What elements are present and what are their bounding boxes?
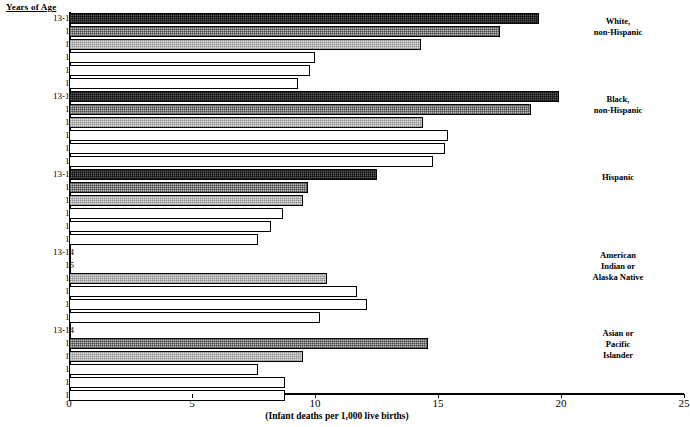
chart-row: 17 [69,207,684,220]
x-tick-label-10: 10 [310,397,321,409]
row-label-age: 17 [14,285,74,298]
group-annotation: Black, non-Hispanic [594,94,643,116]
bar-hispanic-19 [69,234,258,245]
group-annotation: Hispanic [602,172,634,183]
bar-white-non-hispanic-17 [69,52,315,63]
group-annotation: American Indian or Alaska Native [590,250,646,283]
chart-row: 19 [69,155,684,168]
chart-row: 15 [69,25,684,38]
chart-row: 16 [69,194,684,207]
row-label-age: 17 [14,129,74,142]
bar-asian-or-pacific-islander-18 [69,377,285,388]
bar-black-non-hispanic-19 [69,156,433,167]
row-label-age: 15 [14,259,74,272]
bar-white-non-hispanic-16 [69,39,421,50]
x-axis-title: (Infant deaths per 1,000 live births) [0,411,674,421]
row-label-age: 16 [14,116,74,129]
x-tick-label-20: 20 [556,397,567,409]
bar-hispanic-15 [69,182,308,193]
chart-row: 19 [69,311,684,324]
row-label-age: 18 [14,298,74,311]
row-label-age: 15 [14,337,74,350]
row-label-age: 19 [14,389,74,402]
chart-row: 13-14 [69,168,684,181]
bar-american-indian-or-alaska-native-19 [69,312,320,323]
y-axis-header: Years of Age [6,2,56,12]
x-tick-label-15: 15 [433,397,444,409]
bar-asian-or-pacific-islander-17 [69,364,258,375]
bar-hispanic-17 [69,208,283,219]
chart-row: 19 [69,77,684,90]
bar-asian-or-pacific-islander-15 [69,338,428,349]
chart-row: 18 [69,142,684,155]
chart-row: 17 [69,285,684,298]
bar-asian-or-pacific-islander-16 [69,351,303,362]
bar-white-non-hispanic-15 [69,26,500,37]
bar-white-non-hispanic-18 [69,65,310,76]
row-label-age: 16 [14,350,74,363]
row-label-age: 19 [14,155,74,168]
bar-black-non-hispanic-18 [69,143,445,154]
row-label-age: 18 [14,64,74,77]
row-label-age: 15 [14,181,74,194]
chart-row: 16 [69,38,684,51]
chart-row: 13-14 [69,90,684,103]
chart-row: 17 [69,129,684,142]
row-label-age: 18 [14,220,74,233]
bar-american-indian-or-alaska-native-17 [69,286,357,297]
row-label-age: 17 [14,207,74,220]
row-label-age: 19 [14,77,74,90]
chart-row: 18 [69,64,684,77]
chart-row: 17 [69,363,684,376]
bar-american-indian-or-alaska-native-16 [69,273,327,284]
row-label-age: 13-14 [14,12,74,25]
row-label-age: 16 [14,272,74,285]
group-annotation: White, non-Hispanic [594,16,643,38]
row-label-age: 18 [14,376,74,389]
row-label-age: 18 [14,142,74,155]
group-annotation: Asian or Pacific Islander [590,328,646,361]
bar-white-non-hispanic-13-14 [69,13,539,24]
bar-black-non-hispanic-17 [69,130,448,141]
row-label-age: 13-14 [14,168,74,181]
bar-hispanic-13-14 [69,169,377,180]
x-tick-label-0: 0 [66,397,72,409]
bar-hispanic-16 [69,195,303,206]
chart-row: 18 [69,298,684,311]
chart-row: 19 [69,389,684,402]
row-label-age: 19 [14,233,74,246]
row-label-age: 19 [14,311,74,324]
chart-row: 16 [69,116,684,129]
bar-american-indian-or-alaska-native-18 [69,299,367,310]
bar-asian-or-pacific-islander-19 [69,390,285,401]
chart-row: 17 [69,51,684,64]
row-label-age: 13-14 [14,90,74,103]
row-label-age: 16 [14,38,74,51]
x-tick-label-25: 25 [679,397,690,409]
bar-hispanic-18 [69,221,271,232]
chart-row: 18 [69,376,684,389]
x-tick-label-5: 5 [189,397,195,409]
row-label-age: 16 [14,194,74,207]
bar-white-non-hispanic-19 [69,78,298,89]
row-label-age: 15 [14,25,74,38]
chart-row: 15 [69,103,684,116]
chart-row: 19 [69,233,684,246]
row-label-age: 15 [14,103,74,116]
row-label-age: 17 [14,363,74,376]
bar-black-non-hispanic-13-14 [69,91,559,102]
chart-row: 15 [69,181,684,194]
bar-black-non-hispanic-16 [69,117,423,128]
row-label-age: 17 [14,51,74,64]
bar-black-non-hispanic-15 [69,104,531,115]
row-label-age: 13-14 [14,246,74,259]
chart-row: 18 [69,220,684,233]
chart-row: 13-14 [69,12,684,25]
row-label-age: 13-14 [14,324,74,337]
